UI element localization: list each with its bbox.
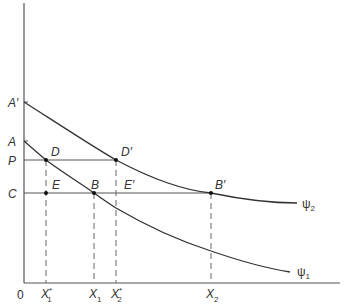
label-x2-star: X*2 bbox=[110, 286, 122, 304]
label-e: E bbox=[52, 178, 61, 192]
label-a-prime: A′ bbox=[7, 96, 19, 110]
point-e bbox=[44, 191, 48, 195]
label-x1-star: X*1 bbox=[40, 286, 52, 304]
curve-psi2 bbox=[24, 102, 297, 203]
point-d bbox=[44, 158, 48, 162]
diagram-canvas: A′ A P C D D′ E B E′ B′ ψ2 ψ1 0 X*1 X1 X… bbox=[0, 0, 350, 307]
point-d-prime bbox=[114, 158, 118, 162]
point-b-prime bbox=[209, 191, 213, 195]
label-origin: 0 bbox=[17, 288, 24, 302]
label-e-prime: E′ bbox=[124, 178, 135, 192]
label-d: D bbox=[51, 145, 60, 159]
curve-psi1 bbox=[24, 141, 290, 272]
label-psi2: ψ2 bbox=[302, 197, 316, 213]
label-b-prime: B′ bbox=[215, 178, 226, 192]
label-p: P bbox=[8, 154, 16, 168]
label-x1: X1 bbox=[88, 287, 102, 304]
label-d-prime: D′ bbox=[121, 145, 133, 159]
label-b: B bbox=[91, 178, 99, 192]
label-psi1: ψ1 bbox=[297, 265, 311, 281]
label-c: C bbox=[8, 187, 17, 201]
label-x2: X2 bbox=[205, 287, 219, 304]
label-a: A bbox=[7, 135, 16, 149]
